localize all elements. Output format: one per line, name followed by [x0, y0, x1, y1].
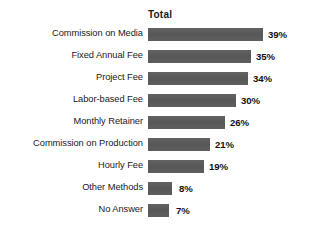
- table-row: Other Methods 8%: [0, 181, 313, 203]
- bar-fill: [148, 182, 172, 195]
- bar-track: 39%: [148, 28, 313, 41]
- bar-chart: Total Commission on Media 39% Fixed Annu…: [0, 0, 313, 228]
- column-header-total: Total: [148, 9, 172, 21]
- table-row: Commission on Media 39%: [0, 27, 313, 49]
- table-row: Hourly Fee 19%: [0, 159, 313, 181]
- category-label: Commission on Production: [8, 137, 143, 150]
- table-row: Project Fee 34%: [0, 71, 313, 93]
- category-label: Hourly Fee: [8, 159, 143, 172]
- table-row: Fixed Annual Fee 35%: [0, 49, 313, 71]
- bar-track: 21%: [148, 138, 313, 151]
- category-label: Project Fee: [8, 71, 143, 84]
- bar-fill: [148, 50, 251, 63]
- bar-fill: [148, 72, 248, 85]
- category-label: No Answer: [8, 203, 143, 216]
- bar-value-label: 35%: [256, 50, 275, 63]
- bar-fill: [148, 204, 169, 217]
- bar-fill: [148, 160, 204, 173]
- bar-value-label: 39%: [268, 28, 287, 41]
- category-label: Fixed Annual Fee: [8, 49, 143, 62]
- bar-track: 30%: [148, 94, 313, 107]
- bar-track: 26%: [148, 116, 313, 129]
- bar-fill: [148, 116, 225, 129]
- table-row: Monthly Retainer 26%: [0, 115, 313, 137]
- category-label: Monthly Retainer: [8, 115, 143, 128]
- category-label: Other Methods: [8, 181, 143, 194]
- bar-value-label: 21%: [215, 138, 234, 151]
- table-row: Labor-based Fee 30%: [0, 93, 313, 115]
- bar-track: 7%: [148, 204, 313, 217]
- chart-plot-area: Commission on Media 39% Fixed Annual Fee…: [0, 27, 313, 225]
- bar-fill: [148, 28, 263, 41]
- bar-fill: [148, 138, 210, 151]
- bar-track: 35%: [148, 50, 313, 63]
- bar-value-label: 7%: [176, 204, 190, 217]
- bar-value-label: 26%: [230, 116, 249, 129]
- bar-value-label: 30%: [241, 94, 260, 107]
- category-label: Labor-based Fee: [8, 93, 143, 106]
- table-row: No Answer 7%: [0, 203, 313, 225]
- bar-track: 34%: [148, 72, 313, 85]
- bar-value-label: 8%: [179, 182, 193, 195]
- table-row: Commission on Production 21%: [0, 137, 313, 159]
- bar-track: 19%: [148, 160, 313, 173]
- bar-value-label: 19%: [209, 160, 228, 173]
- bar-track: 8%: [148, 182, 313, 195]
- bar-value-label: 34%: [253, 72, 272, 85]
- category-label: Commission on Media: [8, 27, 143, 40]
- bar-fill: [148, 94, 236, 107]
